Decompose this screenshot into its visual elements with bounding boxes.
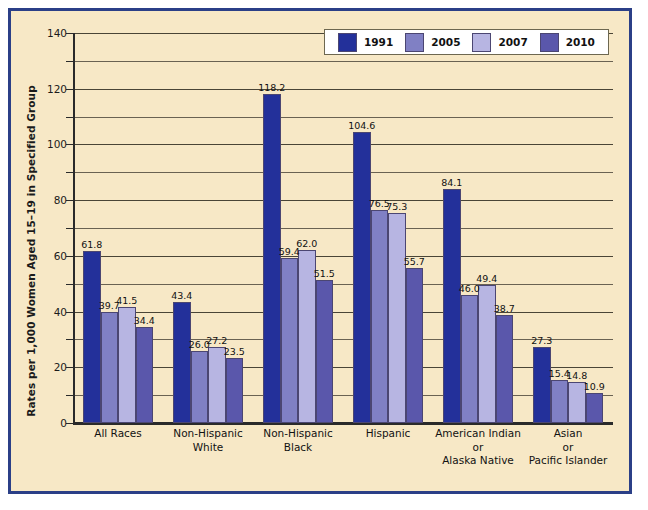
x-axis-category-label: AsianorPacific Islander xyxy=(529,427,608,468)
x-axis-category-label: American IndianorAlaska Native xyxy=(435,427,521,468)
category-label-line: Alaska Native xyxy=(435,454,521,468)
bar xyxy=(388,213,406,423)
y-axis-tick xyxy=(66,367,73,368)
bar-value-label: 34.4 xyxy=(134,315,155,326)
gridline xyxy=(73,228,613,229)
y-axis-tick-label: 0 xyxy=(60,417,67,429)
x-axis-line xyxy=(73,422,613,425)
bar xyxy=(101,312,119,423)
x-axis-category-label: Non-HispanicWhite xyxy=(173,427,242,454)
category-label-line: American Indian xyxy=(435,427,521,441)
bar-value-label: 23.5 xyxy=(224,346,245,357)
y-axis-tick xyxy=(66,312,73,313)
bar xyxy=(208,347,226,423)
y-axis-tick xyxy=(66,61,73,62)
y-axis-tick xyxy=(66,172,73,173)
gridline xyxy=(73,395,613,396)
y-axis-tick xyxy=(66,117,73,118)
y-axis-tick xyxy=(66,395,73,396)
category-label-line: or xyxy=(435,441,521,455)
y-axis-tick xyxy=(66,256,73,257)
legend-item-2010: 2010 xyxy=(540,33,595,52)
bar xyxy=(353,132,371,423)
gridline xyxy=(73,256,613,257)
category-label-line: All Races xyxy=(94,427,142,441)
bar xyxy=(316,280,334,423)
bar xyxy=(586,393,604,423)
legend-swatch-icon xyxy=(338,33,357,52)
y-axis-tick xyxy=(66,89,73,90)
bar xyxy=(533,347,551,423)
bar-value-label: 51.5 xyxy=(314,268,335,279)
bar-value-label: 75.3 xyxy=(386,201,407,212)
bar-value-label: 43.4 xyxy=(171,290,192,301)
bar xyxy=(371,210,389,423)
legend-item-2005: 2005 xyxy=(405,33,460,52)
gridline xyxy=(73,117,613,118)
category-label-line: Non-Hispanic xyxy=(263,427,332,441)
bar-value-label: 41.5 xyxy=(116,295,137,306)
gridline xyxy=(73,367,613,368)
bar-value-label: 10.9 xyxy=(584,381,605,392)
bar xyxy=(226,358,244,423)
legend-label: 2010 xyxy=(566,36,595,48)
bar xyxy=(496,315,514,423)
bar-value-label: 49.4 xyxy=(476,273,497,284)
bar-value-label: 118.2 xyxy=(258,82,285,93)
y-axis-tick xyxy=(66,423,73,424)
category-label-line: Hispanic xyxy=(366,427,411,441)
y-axis-tick-labels: 020406080100120140 xyxy=(29,33,67,423)
y-axis-tick-label: 40 xyxy=(54,306,67,318)
gridline xyxy=(73,284,613,285)
bar xyxy=(136,327,154,423)
bar-value-label: 14.8 xyxy=(566,370,587,381)
chart-legend: 1991200520072010 xyxy=(324,29,609,55)
gridline xyxy=(73,312,613,313)
y-axis-tick xyxy=(66,200,73,201)
category-label-line: Asian xyxy=(529,427,608,441)
bar xyxy=(281,258,299,423)
y-axis-tick-label: 140 xyxy=(47,27,67,39)
y-axis-tick xyxy=(66,33,73,34)
gridline xyxy=(73,200,613,201)
bar xyxy=(263,94,281,423)
x-axis-category-labels: All RacesNon-HispanicWhiteNon-HispanicBl… xyxy=(73,427,613,489)
legend-swatch-icon xyxy=(472,33,491,52)
y-axis-tick-label: 60 xyxy=(54,250,67,262)
y-axis-line xyxy=(73,33,75,423)
bar-value-label: 104.6 xyxy=(348,120,375,131)
legend-item-1991: 1991 xyxy=(338,33,393,52)
chart-frame: Rates per 1,000 Women Aged 15–19 in Spec… xyxy=(8,8,632,494)
legend-label: 1991 xyxy=(364,36,393,48)
x-axis-category-label: Non-HispanicBlack xyxy=(263,427,332,454)
y-axis-tick xyxy=(66,144,73,145)
legend-swatch-icon xyxy=(540,33,559,52)
chart-canvas: Rates per 1,000 Women Aged 15–19 in Spec… xyxy=(11,11,629,491)
legend-label: 2005 xyxy=(431,36,460,48)
bar xyxy=(406,268,424,423)
y-axis-tick xyxy=(66,228,73,229)
y-axis-tick-label: 100 xyxy=(47,138,67,150)
y-axis-tick-label: 80 xyxy=(54,194,67,206)
bar xyxy=(443,189,461,423)
x-axis-category-label: Hispanic xyxy=(366,427,411,441)
y-axis-tick-label: 20 xyxy=(54,361,67,373)
gridline xyxy=(73,89,613,90)
bar-value-label: 61.8 xyxy=(81,239,102,250)
bar-value-label: 55.7 xyxy=(404,256,425,267)
legend-swatch-icon xyxy=(405,33,424,52)
category-label-line: Black xyxy=(263,441,332,455)
category-label-line: Non-Hispanic xyxy=(173,427,242,441)
bar xyxy=(461,295,479,423)
category-label-line: or xyxy=(529,441,608,455)
legend-label: 2007 xyxy=(498,36,527,48)
y-axis-tick-label: 120 xyxy=(47,83,67,95)
bar-value-label: 27.3 xyxy=(531,335,552,346)
y-axis-tick xyxy=(66,339,73,340)
bar xyxy=(551,380,569,423)
bar xyxy=(191,351,209,423)
bar-value-label: 38.7 xyxy=(494,303,515,314)
legend-item-2007: 2007 xyxy=(472,33,527,52)
bar-value-label: 46.0 xyxy=(459,283,480,294)
bar-value-label: 84.1 xyxy=(441,177,462,188)
